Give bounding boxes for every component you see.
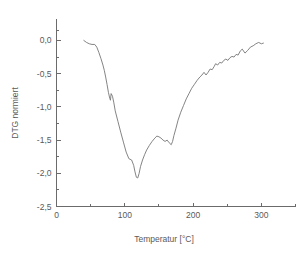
- y-tick-label: -0,5: [37, 69, 52, 79]
- y-tick-label: -1,0: [37, 102, 52, 112]
- y-tick-label: -2,0: [37, 168, 52, 178]
- x-tick-label: 200: [186, 210, 200, 220]
- y-tick-label: 0,0: [40, 35, 52, 45]
- axes: [57, 19, 296, 207]
- x-tick-label: 100: [118, 210, 132, 220]
- dtg-curve: [84, 40, 264, 177]
- tick-labels: 01002003000,0-0,5-1,0-1,5-2,0-2,5: [37, 35, 269, 219]
- x-axis-title: Temperatur [°C]: [134, 234, 194, 244]
- chart-plot-area: 01002003000,0-0,5-1,0-1,5-2,0-2,5 Temper…: [0, 0, 303, 259]
- x-tick-label: 300: [254, 210, 268, 220]
- y-tick-label: -1,5: [37, 135, 52, 145]
- tick-marks: [57, 31, 296, 207]
- y-axis-title: DTG normiert: [10, 87, 20, 139]
- x-tick-label: 0: [54, 210, 59, 220]
- y-tick-label: -2,5: [37, 202, 52, 212]
- dtg-chart: 01002003000,0-0,5-1,0-1,5-2,0-2,5 Temper…: [0, 0, 303, 259]
